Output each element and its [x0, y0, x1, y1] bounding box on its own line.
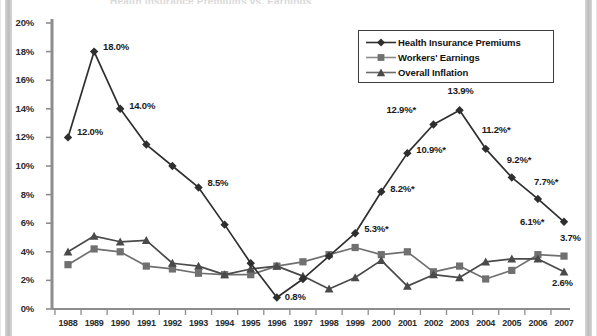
legend-item-2[interactable]: Overall Inflation	[364, 65, 547, 80]
y-tick-label: 2%	[0, 274, 34, 285]
y-tick-label: 18%	[0, 46, 34, 57]
data-label: 8.2%*	[390, 183, 414, 194]
data-label: 5.3%*	[364, 223, 388, 234]
chart-title-clipped: Health Insurance Premiums vs. Earnings	[110, 0, 440, 4]
data-label: 13.9%	[448, 85, 474, 96]
data-label: 11.2%*	[482, 124, 511, 135]
data-label: 12.0%	[77, 126, 103, 137]
data-label: 12.9%*	[386, 104, 415, 115]
y-tick-label: 0%	[0, 303, 34, 314]
data-label: 9.2%*	[507, 154, 531, 165]
data-label: 0.8%	[285, 291, 306, 302]
data-label: 2.6%	[552, 277, 573, 288]
legend-item-1[interactable]: Workers' Earnings	[364, 50, 547, 65]
y-tick-label: 4%	[0, 246, 34, 257]
y-tick-label: 10%	[0, 160, 34, 171]
data-label: 14.0%	[129, 100, 155, 111]
legend-key-triangle-icon	[364, 66, 398, 79]
series-square	[64, 244, 567, 283]
legend-label-1: Workers' Earnings	[398, 52, 480, 63]
data-label: 7.7%*	[534, 176, 558, 187]
right-scroll-rail[interactable]	[585, 0, 592, 336]
chart-screenshot: Health Insurance Premiums vs. Earnings 0…	[0, 0, 597, 336]
data-label: 3.7%	[560, 232, 581, 243]
series-diamond	[64, 47, 568, 301]
legend-label-2: Overall Inflation	[398, 67, 468, 78]
legend-key-diamond-icon	[364, 36, 398, 49]
y-tick-label: 20%	[0, 17, 34, 28]
data-label: 8.5%	[208, 177, 229, 188]
y-tick-label: 12%	[0, 131, 34, 142]
y-tick-label: 6%	[0, 217, 34, 228]
y-tick-label: 16%	[0, 74, 34, 85]
data-label: 10.9%*	[416, 144, 445, 155]
x-tick-label: 2007	[547, 318, 581, 328]
data-label: 18.0%	[103, 41, 129, 52]
y-tick-label: 14%	[0, 103, 34, 114]
legend-label-0: Health Insurance Premiums	[398, 37, 521, 48]
chart-legend: Health Insurance Premiums Workers' Earni…	[358, 30, 554, 83]
legend-key-square-icon	[364, 51, 398, 64]
y-tick-label: 8%	[0, 189, 34, 200]
data-label: 6.1%*	[520, 216, 544, 227]
legend-item-0[interactable]: Health Insurance Premiums	[364, 35, 547, 50]
